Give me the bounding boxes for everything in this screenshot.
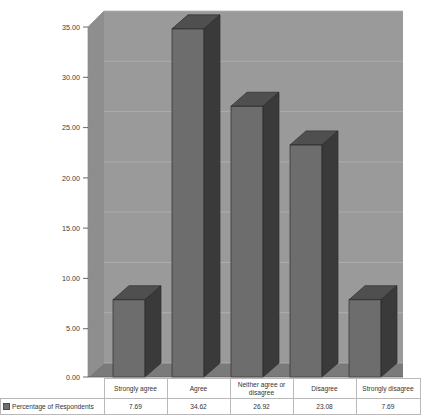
- table-header-strongly-disagree: Strongly disagree: [356, 379, 420, 399]
- chart-canvas: 35.00 30.00 25.00 20.00 15.00 10.00 5.00…: [0, 0, 403, 380]
- table-series-row: Percentage of Respondents 7.69 34.62 26.…: [1, 399, 421, 415]
- table-header-neither-agree-or-disagree: Neither agree or disagree: [230, 379, 293, 399]
- bar-strongly-agree: [113, 286, 161, 377]
- table-cell-value: 26.92: [230, 399, 293, 415]
- y-tick-label: 25.00: [62, 123, 80, 132]
- bar-disagree: [290, 131, 338, 377]
- table-cell-value: 23.08: [293, 399, 356, 415]
- table-cell-value: 7.69: [104, 399, 167, 415]
- bar-agree: [172, 15, 220, 377]
- table-header-strongly-agree: Strongly agree: [104, 379, 167, 399]
- y-tick-label: 30.00: [62, 73, 80, 82]
- category-label-line1: Disagree: [295, 385, 355, 392]
- category-label-line1: Strongly agree: [106, 385, 166, 392]
- category-label-line1: Agree: [169, 385, 229, 392]
- bar-neither-agree-or-disagree: [231, 92, 279, 377]
- y-tick-label: 10.00: [62, 274, 80, 283]
- table-header-agree: Agree: [167, 379, 230, 399]
- bar-chart-figure: 35.00 30.00 25.00 20.00 15.00 10.00 5.00…: [0, 0, 403, 380]
- table-header-disagree: Disagree: [293, 379, 356, 399]
- table-header-row: Strongly agree Agree Neither agree or di…: [1, 379, 421, 399]
- table-corner-cell: [1, 379, 105, 399]
- y-tick-label: 15.00: [62, 224, 80, 233]
- category-label-line1: Neither agree or: [232, 381, 292, 388]
- category-label-line2: disagree: [232, 389, 292, 396]
- y-axis-ticks: [83, 27, 88, 377]
- legend-label: Percentage of Respondents: [12, 403, 94, 410]
- data-table: Strongly agree Agree Neither agree or di…: [0, 378, 421, 415]
- y-tick-label: 5.00: [66, 324, 80, 333]
- bar-strongly-disagree: [349, 286, 397, 377]
- y-axis-tick-labels: 35.00 30.00 25.00 20.00 15.00 10.00 5.00…: [62, 23, 80, 380]
- y-tick-label: 35.00: [62, 23, 80, 32]
- legend-swatch-icon: [3, 403, 10, 410]
- category-label-line1: Strongly disagree: [358, 385, 419, 392]
- y-tick-label: 20.00: [62, 174, 80, 183]
- legend-entry-percentage-of-respondents: Percentage of Respondents: [1, 399, 105, 415]
- table-cell-value: 34.62: [167, 399, 230, 415]
- table-cell-value: 7.69: [356, 399, 420, 415]
